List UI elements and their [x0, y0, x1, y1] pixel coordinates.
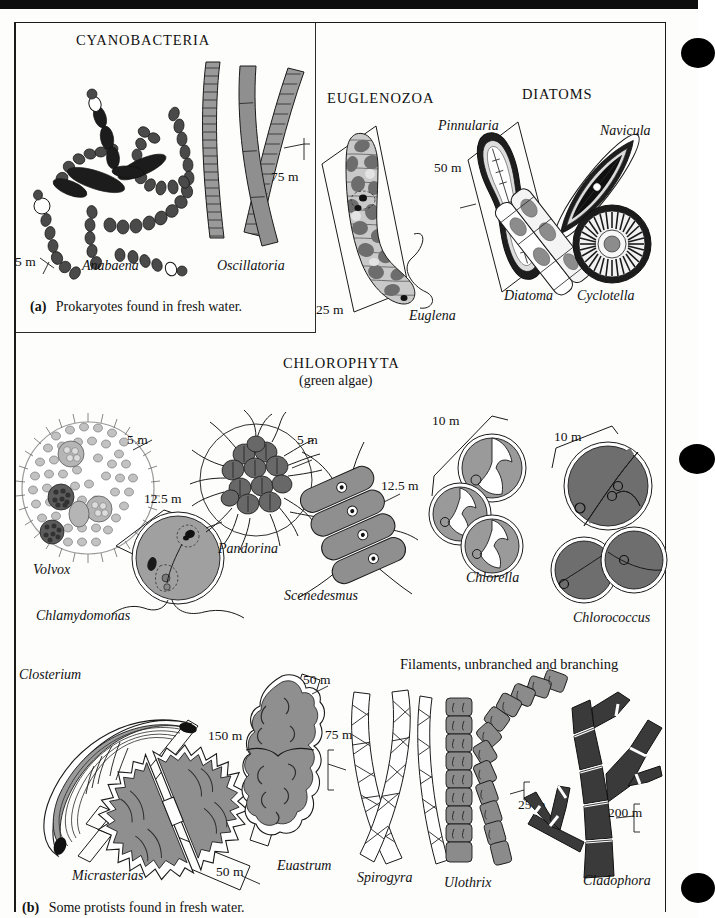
label-spirogyra: Spirogyra	[357, 870, 412, 886]
label-ulothrix: Ulothrix	[444, 875, 491, 891]
label-navicula: Navicula	[600, 123, 651, 139]
heading-chlorophyta-sub: (green algae)	[299, 373, 372, 389]
page-thumb-tab-2	[679, 444, 715, 474]
label-euglena: Euglena	[409, 308, 456, 324]
oscillatoria-drawing	[196, 60, 316, 260]
label-cyclotella: Cyclotella	[577, 288, 635, 304]
caption-a: (a) Prokaryotes found in fresh water.	[30, 299, 242, 315]
euastrum-drawing	[228, 668, 358, 858]
scenedesmus-drawing	[288, 440, 418, 610]
euglena-drawing	[316, 112, 456, 327]
cladophora-drawing	[488, 690, 668, 880]
scan-edge-band-top	[0, 0, 698, 9]
caption-a-text: Prokaryotes found in fresh water.	[56, 299, 242, 314]
scale-chlamydomonas: 12.5 m	[144, 491, 182, 507]
label-volvox: Volvox	[33, 562, 70, 578]
scale-pinnularia: 50 m	[434, 160, 461, 176]
chlorella-drawing	[418, 410, 548, 590]
label-anabaena: Anabaena	[82, 258, 139, 274]
scale-chlorella: 10 m	[432, 413, 459, 429]
label-euastrum: Euastrum	[277, 858, 331, 874]
label-diatoma: Diatoma	[504, 288, 553, 304]
scale-cladophora: 200 m	[608, 805, 642, 821]
chlorococcus-drawing	[546, 420, 676, 610]
caption-a-label: (a)	[30, 299, 46, 314]
caption-b-text: Some protists found in fresh water.	[49, 900, 245, 915]
label-chlamydomonas: Chlamydomonas	[36, 608, 130, 624]
scale-micrasterias: 50 m	[216, 864, 243, 880]
label-pandorina: Pandorina	[218, 541, 278, 557]
heading-euglenozoa: EUGLENOZOA	[327, 90, 434, 107]
caption-b-label: (b)	[22, 900, 39, 915]
label-chlorococcus: Chlorococcus	[573, 610, 650, 626]
scale-chlorococcus: 10 m	[554, 429, 581, 445]
label-oscillatoria: Oscillatoria	[217, 258, 285, 274]
scale-anabaena: 5 m	[15, 254, 36, 270]
scale-oscillatoria: 75 m	[271, 169, 298, 185]
scale-euglena: 25 m	[316, 302, 343, 318]
page-thumb-tab-3	[681, 873, 715, 903]
label-micrasterias: Micrasterias	[72, 868, 144, 884]
scale-volvox: 5 m	[127, 432, 148, 448]
heading-chlorophyta: CHLOROPHYTA	[283, 355, 400, 372]
label-cladophora: Cladophora	[583, 873, 651, 889]
caption-b: (b) Some protists found in fresh water.	[22, 900, 245, 916]
scale-euastrum: 50 m	[303, 672, 330, 688]
scale-spirogyra: 75 m	[325, 727, 352, 743]
heading-cyanobacteria: CYANOBACTERIA	[76, 32, 210, 49]
page-thumb-tab-1	[681, 38, 715, 68]
heading-diatoms: DIATOMS	[522, 86, 593, 103]
cyclotella-drawing	[570, 202, 654, 286]
label-pinnularia: Pinnularia	[438, 118, 499, 134]
label-chlorella: Chlorella	[466, 570, 519, 586]
scale-scenedesmus: 12.5 m	[381, 478, 419, 494]
label-scenedesmus: Scenedesmus	[284, 588, 358, 604]
